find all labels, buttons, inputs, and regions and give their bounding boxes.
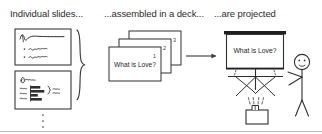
slide-thumbnail-1 (15, 29, 71, 65)
deck-slide-number-3: 3 (173, 37, 176, 43)
deck-slide-number-2: 2 (163, 45, 166, 51)
stick-figure-presenter (288, 54, 310, 116)
deck-slide-number-1: 1 (153, 53, 156, 59)
projector (246, 106, 268, 125)
grouping-brace (77, 30, 85, 100)
figure-canvas: Individual slides... ...assembled in a d… (0, 0, 322, 134)
slide-thumbnail-2 (15, 71, 71, 109)
diagram-svg: 3 2 1 What is Love? What is Love? (0, 0, 322, 134)
flow-arrow (186, 54, 216, 59)
projection-screen-text: What is Love? (233, 47, 276, 54)
projection-screen: What is Love? (224, 31, 286, 69)
deck-slide-1: 1 What is Love? (109, 47, 161, 81)
deck-slide-title: What is Love? (114, 61, 156, 68)
vertical-ellipsis (42, 114, 44, 128)
tripod-stand (228, 69, 283, 96)
